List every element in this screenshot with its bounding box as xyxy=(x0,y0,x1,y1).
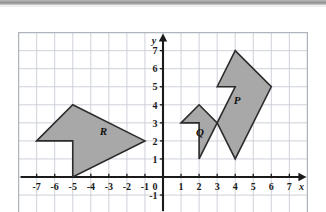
x-tick-label: -7 xyxy=(32,181,40,192)
x-axis-arrowhead xyxy=(298,173,306,181)
figure-canvas: -7-6-5-4-3-2-112345677654321-10 RPQ xy xyxy=(0,0,326,212)
shape-label-r: R xyxy=(99,125,107,137)
x-tick-label: 7 xyxy=(287,181,292,192)
y-axis-label: y xyxy=(151,35,157,46)
y-tick-label: 7 xyxy=(153,45,158,56)
x-tick-label: -6 xyxy=(51,181,59,192)
x-tick-label: -5 xyxy=(69,181,77,192)
x-tick-label: 5 xyxy=(251,181,256,192)
shape-label-p: P xyxy=(234,94,241,106)
y-tick-label: 3 xyxy=(153,118,158,129)
y-axis-arrowhead xyxy=(159,34,167,42)
x-tick-label: -3 xyxy=(105,181,113,192)
y-tick-label: 1 xyxy=(153,154,158,165)
x-axis-label: x xyxy=(298,181,304,192)
coordinate-plane-svg: -7-6-5-4-3-2-112345677654321-10 RPQ xy xyxy=(0,7,326,212)
origin-label: 0 xyxy=(153,181,158,192)
x-tick-label: -4 xyxy=(87,181,95,192)
y-tick-label: 2 xyxy=(153,136,158,147)
shape-label-q: Q xyxy=(196,126,204,138)
y-tick-label: 5 xyxy=(153,81,158,92)
x-tick-label: 3 xyxy=(215,181,220,192)
x-tick-label: -2 xyxy=(123,181,131,192)
y-tick-label: 4 xyxy=(153,100,158,111)
x-tick-label: 4 xyxy=(233,181,238,192)
polygon-shape-r xyxy=(37,105,145,177)
x-tick-label: 6 xyxy=(269,181,274,192)
x-tick-label: 1 xyxy=(179,181,184,192)
x-tick-label: -1 xyxy=(141,181,149,192)
y-tick-label: 6 xyxy=(153,63,158,74)
coordinate-plane: -7-6-5-4-3-2-112345677654321-10 RPQ xy xyxy=(0,7,326,212)
x-tick-label: 2 xyxy=(197,181,202,192)
